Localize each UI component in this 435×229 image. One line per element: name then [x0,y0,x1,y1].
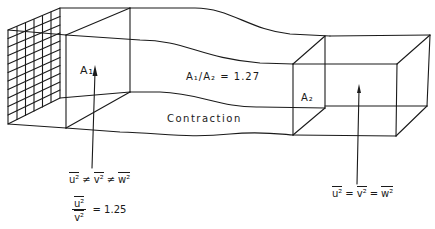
inlet-arrow [92,72,95,168]
operator: = [370,188,378,199]
outlet-arrow [357,90,359,184]
v-squared-term: v² [357,186,367,199]
outlet-section [293,35,430,136]
operator: ≠ [107,174,115,185]
w-squared-term: w² [381,186,393,199]
operator: = [345,188,353,199]
outlet-arrowhead-icon [357,84,361,93]
turbulence-grid [8,8,60,124]
denominator: v² [74,210,84,223]
inlet-ratio-equation: u² v² = 1.25 [72,196,129,223]
v-squared-term: v² [94,172,104,185]
ratio-value: = 1.25 [93,204,127,215]
operator: ≠ [82,174,90,185]
area-ratio-label: A₁/A₂ = 1.27 [186,72,260,82]
u-squared-term: u² [69,172,79,185]
outlet-isotropy-equation: u²=v²=w² [332,186,393,199]
w-squared-term: w² [118,172,130,185]
contraction-label: Contraction [167,114,242,124]
inlet-area-label: A₁ [80,65,94,76]
inlet-anisotropy-equation: u²≠v²≠w² [69,172,130,185]
u-squared-term: u² [332,186,342,199]
numerator: u² [74,196,84,209]
fraction: u² v² [72,196,86,223]
outlet-area-label: A₂ [301,93,314,103]
inlet-section [8,8,130,128]
